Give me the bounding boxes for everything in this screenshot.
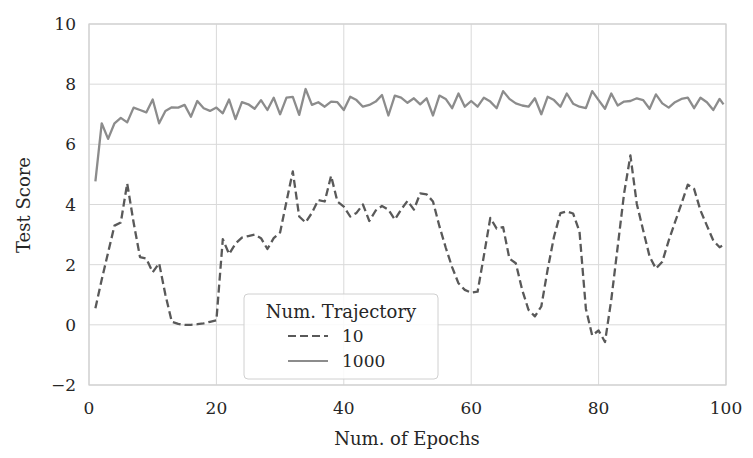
x-tick-label: 60	[460, 398, 482, 418]
legend-title: Num. Trajectory	[266, 301, 417, 322]
y-tick-label: 10	[54, 14, 76, 34]
y-tick-label: −2	[51, 375, 76, 395]
x-tick-label: 80	[588, 398, 610, 418]
legend-entry-1000: 1000	[342, 351, 385, 371]
legend: Num. Trajectory 10 1000	[244, 294, 438, 379]
y-axis-label: Test Score	[13, 157, 34, 253]
x-tick-label: 20	[206, 398, 228, 418]
y-tick-label: 4	[65, 195, 76, 215]
x-axis-ticks: 020406080100	[84, 398, 743, 418]
line-chart: 020406080100 −20246810 Num. of Epochs Te…	[0, 0, 753, 458]
y-axis-ticks: −20246810	[51, 14, 76, 395]
y-tick-label: 0	[65, 315, 76, 335]
x-tick-label: 0	[84, 398, 95, 418]
y-tick-label: 8	[65, 74, 76, 94]
x-axis-label: Num. of Epochs	[334, 428, 480, 449]
x-tick-label: 100	[710, 398, 742, 418]
legend-entry-10: 10	[342, 326, 364, 346]
x-tick-label: 40	[333, 398, 355, 418]
y-tick-label: 6	[65, 134, 76, 154]
y-tick-label: 2	[65, 255, 76, 275]
